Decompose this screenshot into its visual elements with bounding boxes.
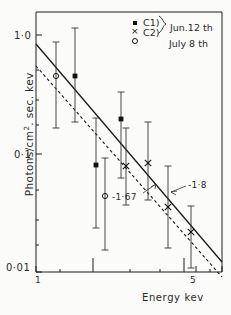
legend-label-july8: July 8 th: [169, 38, 208, 49]
marker-layer: [53, 73, 194, 235]
legend-label-c2: C2): [143, 27, 159, 38]
errorbar-july8-p2: [102, 158, 109, 250]
fit-line-dashed: [36, 66, 222, 277]
annotation-leaders: [143, 184, 186, 195]
legend-open-circle-icon: [132, 38, 138, 44]
data-points: [53, 28, 195, 268]
y-axis-title-post: . sec. kev: [23, 72, 35, 125]
y-axis-title: Photons/cm2. sec. kev: [23, 59, 36, 209]
errorbar-july8-p1: [53, 42, 60, 128]
y-axis-title-exponent: 2: [23, 126, 31, 131]
slope-annotation-18: -1·8: [188, 180, 207, 190]
y-axis-ticks: [36, 35, 42, 272]
legend-filled-square-icon: [133, 21, 137, 25]
legend-cross-icon: ×: [131, 27, 139, 36]
x-tick-label-1: 1: [35, 275, 41, 285]
legend-brace: [159, 16, 166, 33]
slope-annotation-167: -1·67: [112, 192, 137, 202]
leader-167-arrow: [151, 184, 156, 189]
errorbar-c2-p4: [188, 206, 195, 268]
x-tick-label-5: 5: [190, 275, 196, 285]
x-axis-ticks: [36, 258, 222, 272]
y-tick-label-1: 1·0: [14, 30, 31, 41]
leader-18-arrow: [171, 191, 177, 195]
marker-filled-square: [94, 163, 99, 168]
y-axis-title-pre: Photons/cm: [23, 131, 35, 197]
y-tick-label-001: 0·01: [6, 262, 30, 273]
marker-filled-square: [119, 117, 124, 122]
leader-18: [171, 186, 186, 192]
x-axis-title: Energy kev: [142, 292, 204, 303]
errorbar-c1-p3: [93, 118, 100, 228]
errorbar-c1-p2: [118, 92, 125, 178]
plot-frame: [36, 12, 222, 272]
legend-label-jun12: Jun.12 th: [170, 22, 213, 33]
marker-filled-square: [73, 74, 78, 79]
